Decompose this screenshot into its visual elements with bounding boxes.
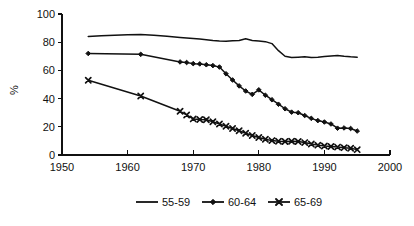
marker-diamond bbox=[211, 63, 216, 68]
y-axis-title: % bbox=[8, 85, 20, 95]
x-tick-label: 1970 bbox=[181, 161, 205, 173]
legend-label-65-69[interactable]: 65-69 bbox=[294, 196, 322, 208]
legend-item-60-64[interactable]: 60-64 bbox=[202, 196, 256, 208]
legend-label-55-59[interactable]: 55-59 bbox=[162, 196, 190, 208]
marker-diamond bbox=[210, 199, 215, 204]
marker-diamond bbox=[296, 110, 301, 115]
marker-diamond bbox=[191, 61, 196, 66]
marker-diamond bbox=[342, 126, 347, 131]
y-tick-label: 80 bbox=[43, 36, 55, 48]
y-tick-label: 0 bbox=[49, 149, 55, 161]
y-tick-label: 40 bbox=[43, 93, 55, 105]
x-tick-label: 2000 bbox=[378, 161, 402, 173]
marker-diamond bbox=[355, 129, 360, 134]
marker-diamond bbox=[348, 126, 353, 131]
series-65-69 bbox=[86, 78, 360, 153]
marker-diamond bbox=[204, 62, 209, 67]
marker-diamond bbox=[309, 116, 314, 121]
y-tick-label: 20 bbox=[43, 121, 55, 133]
legend-label-60-64[interactable]: 60-64 bbox=[228, 196, 256, 208]
x-tick-label: 1960 bbox=[115, 161, 139, 173]
marker-x bbox=[184, 112, 189, 117]
series-group bbox=[86, 35, 360, 153]
marker-diamond bbox=[316, 118, 321, 123]
x-tick-label: 1990 bbox=[312, 161, 336, 173]
marker-diamond bbox=[302, 113, 307, 118]
line-chart: 020406080100195019601970198019902000% 55… bbox=[0, 0, 414, 226]
marker-diamond bbox=[178, 60, 183, 65]
marker-diamond bbox=[138, 52, 143, 57]
marker-diamond bbox=[86, 51, 91, 56]
legend-item-55-59[interactable]: 55-59 bbox=[136, 196, 190, 208]
x-tick-label: 1950 bbox=[50, 161, 74, 173]
chart-container: 020406080100195019601970198019902000% 55… bbox=[0, 0, 414, 226]
series-line-65-69 bbox=[88, 80, 357, 149]
legend-item-65-69[interactable]: 65-69 bbox=[268, 196, 322, 208]
x-tick-label: 1980 bbox=[247, 161, 271, 173]
marker-diamond bbox=[322, 120, 327, 125]
legend-group: 55-5960-6465-69 bbox=[136, 196, 322, 208]
y-tick-label: 60 bbox=[43, 64, 55, 76]
marker-diamond bbox=[197, 62, 202, 67]
y-tick-label: 100 bbox=[37, 8, 55, 20]
marker-diamond bbox=[184, 60, 189, 65]
